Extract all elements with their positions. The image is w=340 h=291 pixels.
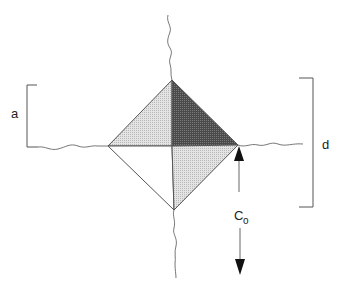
- arrow-down-head-icon: [235, 259, 245, 275]
- wavy-line-left: [38, 145, 108, 150]
- quadrant-top-left: [108, 80, 172, 146]
- label-a: a: [11, 106, 19, 121]
- bracket-d: [299, 78, 313, 207]
- quadrant-top-right-shaded: [172, 80, 238, 146]
- label-d: d: [322, 137, 329, 152]
- wavy-line-bottom: [173, 210, 176, 278]
- bracket-a: [27, 85, 38, 147]
- label-c: C: [234, 208, 243, 223]
- wavy-line-right: [238, 143, 303, 146]
- wavy-line-top: [168, 15, 172, 80]
- quadrant-bottom-left: [108, 146, 174, 210]
- label-c-subscript: o: [243, 215, 249, 226]
- crack-tip-diagram: a d C o: [0, 0, 340, 291]
- quadrant-bottom-right: [172, 145, 238, 210]
